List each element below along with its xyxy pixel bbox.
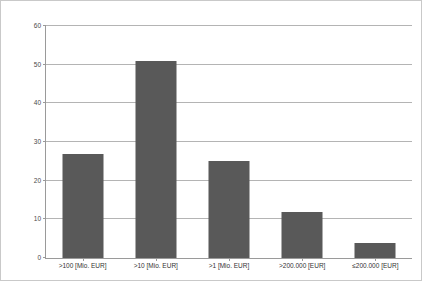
y-tick-label: 20 [34, 177, 41, 184]
bar[interactable] [208, 161, 249, 258]
x-tick-label: >1 [Mio. EUR] [209, 263, 250, 270]
y-tick-label: 60 [34, 23, 41, 30]
bar[interactable] [282, 212, 323, 258]
x-tick-label: ≤200.000 [EUR] [352, 263, 398, 270]
y-tick-label: 10 [34, 216, 41, 223]
bar[interactable] [135, 61, 176, 258]
x-tick-label: >200.000 [EUR] [279, 263, 325, 270]
x-tick-mark [302, 258, 303, 261]
bar[interactable] [62, 154, 103, 258]
x-tick-mark [375, 258, 376, 261]
bar-slot: ≤200.000 [EUR] [339, 26, 412, 258]
x-tick-mark [229, 258, 230, 261]
y-tick-label: 0 [37, 255, 41, 262]
x-tick-mark [83, 258, 84, 261]
bar-chart-figure: 0102030405060 >100 [Mio. EUR]>10 [Mio. E… [0, 0, 422, 281]
bar-slot: >1 [Mio. EUR] [192, 26, 265, 258]
y-tick-label: 50 [34, 61, 41, 68]
x-tick-mark [156, 258, 157, 261]
bars-layer: >100 [Mio. EUR]>10 [Mio. EUR]>1 [Mio. EU… [46, 26, 412, 258]
x-tick-label: >100 [Mio. EUR] [59, 263, 107, 270]
y-tick-label: 30 [34, 139, 41, 146]
bar[interactable] [355, 243, 396, 258]
bar-slot: >200.000 [EUR] [266, 26, 339, 258]
bar-slot: >10 [Mio. EUR] [119, 26, 192, 258]
plot-area: 0102030405060 >100 [Mio. EUR]>10 [Mio. E… [45, 26, 412, 259]
bar-slot: >100 [Mio. EUR] [46, 26, 119, 258]
y-tick-label: 40 [34, 100, 41, 107]
x-tick-label: >10 [Mio. EUR] [134, 263, 178, 270]
